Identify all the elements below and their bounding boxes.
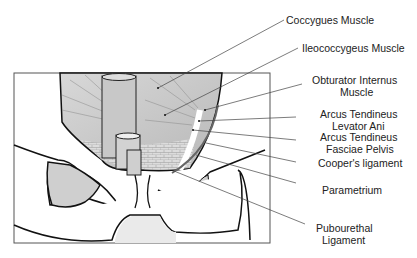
label-parametrium: Parametrium bbox=[322, 184, 382, 196]
label-pubourethal-ligament-line1: Pubourethal bbox=[316, 222, 373, 234]
label-pubourethal-ligament-line2: Ligament bbox=[322, 234, 365, 246]
label-arcus-tendineus-fasciae-pelvis-line2: Fasciae Pelvis bbox=[326, 143, 394, 155]
label-coopers-ligament: Cooper's ligament bbox=[318, 157, 402, 169]
label-coccygeus-muscle: Coccygues Muscle bbox=[286, 14, 374, 26]
label-arcus-tendineus-fasciae-pelvis-line1: Arcus Tendineus bbox=[320, 131, 397, 143]
label-arcus-tendineus-levator-ani-line1: Arcus Tendineus bbox=[320, 108, 397, 120]
label-obturator-internus-line1: Obturator Internus bbox=[312, 74, 397, 86]
label-ileococcygeus-muscle: Ileococcygeus Muscle bbox=[302, 42, 405, 54]
label-obturator-internus-line2: Muscle bbox=[340, 86, 373, 98]
